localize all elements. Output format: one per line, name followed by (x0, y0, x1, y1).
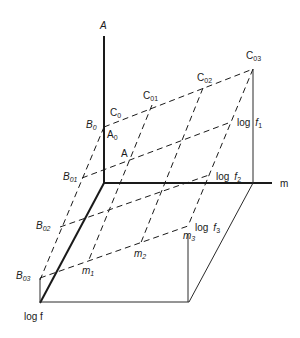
label-axis-m: m (280, 178, 288, 189)
label-point-a: A (121, 148, 128, 159)
label-axis-a: A (99, 20, 107, 31)
label-c03: C03 (246, 50, 261, 62)
col-c02-m2 (140, 88, 203, 245)
label-m2: m2 (134, 248, 146, 260)
label-c01: C01 (143, 90, 158, 102)
label-b03: B03 (16, 270, 31, 282)
col-c03-m3 (188, 69, 253, 226)
label-a0: A0 (107, 129, 118, 141)
label-log-f1: logf1 (237, 117, 262, 129)
axis-log-f-depth (40, 183, 104, 303)
col-b0-b03 (40, 127, 104, 280)
label-c02: C02 (197, 72, 212, 84)
label-log-f2: logf2 (216, 171, 241, 183)
label-log-f3: logf3 (195, 222, 220, 234)
label-c0: C0 (110, 107, 121, 119)
label-axis-log-f: log f (24, 311, 43, 322)
3d-axes-diagram: A m log f C0 B0 A0 A C01 C02 C03 B01 B02… (0, 0, 300, 338)
label-m1: m1 (82, 265, 94, 277)
label-m3: m3 (183, 230, 195, 242)
label-b01: B01 (63, 171, 78, 183)
label-b0: B0 (86, 119, 97, 131)
row-b0-c03 (104, 69, 253, 127)
row-b03-m3 (40, 226, 188, 278)
label-b02: B02 (36, 220, 51, 232)
